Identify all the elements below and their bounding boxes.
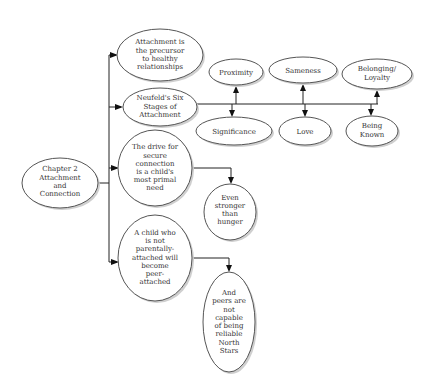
svg-text:Attachment isthe precursorto h: Attachment isthe precursorto healthyrela…: [134, 38, 185, 71]
svg-text:Proximity: Proximity: [219, 69, 253, 77]
stage-love[interactable]: Love: [279, 117, 333, 147]
svg-text:Chapter 2AttachmentandConnecti: Chapter 2AttachmentandConnection: [38, 165, 80, 198]
mind-map: Chapter 2AttachmentandConnection Attachm…: [0, 0, 434, 392]
branch-attachment-precursor[interactable]: Attachment isthe precursorto healthyrela…: [117, 29, 205, 83]
stage-being-known[interactable]: BeingKnown: [346, 116, 400, 148]
root-line: Chapter 2: [42, 165, 78, 173]
stage-proximity[interactable]: Proximity: [209, 59, 265, 87]
svg-text:Significance: Significance: [212, 128, 256, 136]
sub-even-stronger[interactable]: Evenstrongerthanhunger: [204, 184, 258, 242]
stage-significance[interactable]: Significance: [196, 117, 274, 147]
stage-belonging-loyalty[interactable]: Belonging/Loyalty: [342, 59, 414, 91]
svg-text:BeingKnown: BeingKnown: [360, 122, 385, 139]
stage-sameness[interactable]: Sameness: [269, 57, 339, 85]
branch-drive-secure-connection[interactable]: The drive forsecureconnectionis a child'…: [118, 130, 194, 208]
sub-peers-not-capable[interactable]: Andpeers arenotcapableof beingreliableNo…: [203, 272, 257, 374]
branch-neufeld-stages[interactable]: Neufeld's SixStages ofAttachment: [123, 88, 199, 128]
branch-child-peer-attached[interactable]: A child whois notparentally-attached wil…: [118, 215, 194, 303]
svg-text:Sameness: Sameness: [285, 67, 321, 75]
root-node[interactable]: Chapter 2AttachmentandConnection: [22, 158, 100, 210]
svg-text:Love: Love: [297, 128, 314, 136]
svg-text:Neufeld's SixStages ofAttachme: Neufeld's SixStages ofAttachment: [137, 94, 184, 119]
